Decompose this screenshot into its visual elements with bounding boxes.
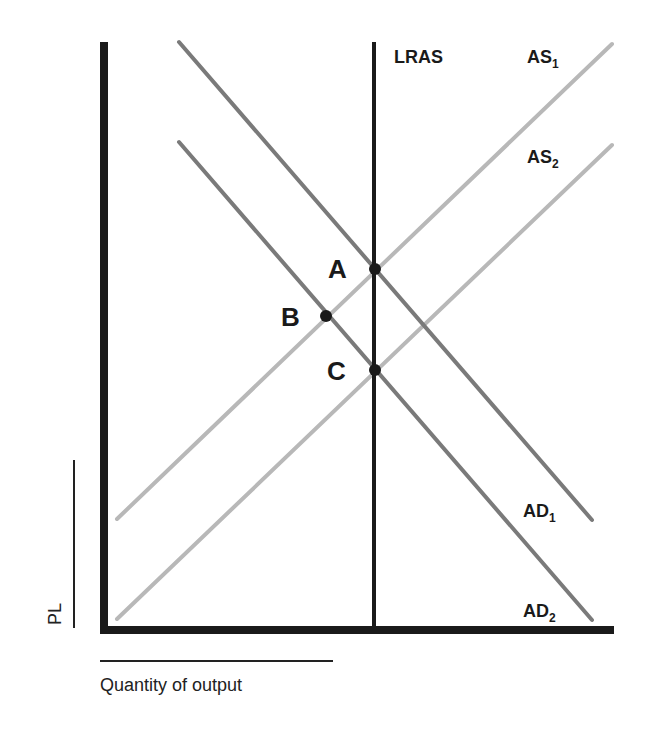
point-b-label: B <box>281 302 300 332</box>
ad2-label: AD2 <box>523 601 556 625</box>
ad1-label-main: AD <box>523 501 549 521</box>
as1-curve <box>117 44 612 519</box>
as2-label-main: AS <box>527 147 552 167</box>
point-a-label: A <box>328 254 347 284</box>
as1-label: AS1 <box>527 47 559 71</box>
lras-label: LRAS <box>394 47 443 67</box>
ad2-curve <box>179 142 592 620</box>
ad1-label-sub: 1 <box>549 511 556 525</box>
x-axis-label: Quantity of output <box>100 675 242 695</box>
ad2-label-main: AD <box>523 601 549 621</box>
ad2-label-sub: 2 <box>549 611 556 625</box>
as2-label: AS2 <box>527 147 559 171</box>
as2-label-sub: 2 <box>552 157 559 171</box>
point-c-label: C <box>327 356 346 386</box>
ad1-curve <box>179 42 592 520</box>
point-a-dot <box>369 263 381 275</box>
as1-label-main: AS <box>527 47 552 67</box>
point-c-dot <box>369 364 381 376</box>
y-axis-label: PL <box>45 603 65 625</box>
ad1-label: AD1 <box>523 501 556 525</box>
as1-label-sub: 1 <box>552 57 559 71</box>
as2-curve <box>117 145 612 619</box>
point-b-dot <box>320 310 332 322</box>
as-ad-diagram: A B C LRAS AS1 AS2 AD1 AD2 PL Quantity o… <box>0 0 649 733</box>
